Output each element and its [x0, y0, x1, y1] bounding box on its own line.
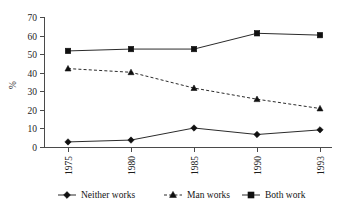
x-tick-label: 1975 — [64, 156, 74, 175]
square-marker — [254, 31, 259, 36]
y-tick-label: 60 — [28, 32, 38, 42]
y-tick-label: 50 — [28, 50, 38, 60]
square-marker — [248, 192, 254, 198]
x-tick-label: 1990 — [253, 156, 263, 175]
square-marker — [317, 32, 322, 37]
y-axis-title: % — [8, 81, 18, 89]
x-tick-label: 1993 — [316, 156, 326, 175]
y-tick-label: 30 — [28, 87, 38, 97]
line-chart: 70 60 50 40 30 20 10 0 % 1975 1980 1985 … — [0, 0, 347, 215]
y-tick-label: 0 — [32, 143, 37, 153]
y-tick-label: 70 — [28, 13, 38, 23]
legend-label-both-work: Both work — [265, 190, 306, 200]
square-marker — [128, 46, 133, 51]
x-tick-label: 1980 — [127, 156, 137, 175]
legend-label-man-works: Man works — [187, 190, 230, 200]
x-tick-label: 1985 — [190, 156, 200, 175]
square-marker — [65, 48, 70, 53]
y-tick-label: 20 — [28, 106, 38, 116]
square-marker — [191, 46, 196, 51]
chart-canvas: 70 60 50 40 30 20 10 0 % 1975 1980 1985 … — [0, 0, 347, 215]
y-tick-label: 40 — [28, 69, 38, 79]
legend-label-neither-works: Neither works — [81, 190, 135, 200]
chart-background — [0, 0, 347, 215]
y-tick-label: 10 — [28, 124, 38, 134]
